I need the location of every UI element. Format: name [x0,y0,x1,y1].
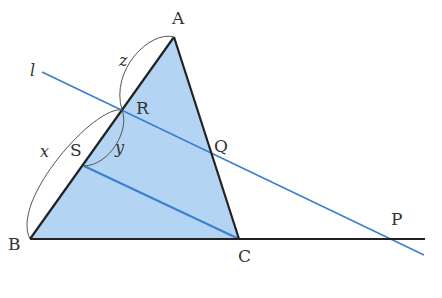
label-s: S [70,140,82,160]
label-a: A [171,8,185,28]
label-x: x [40,142,49,161]
label-line-l: l [30,61,35,80]
geometry-diagram: A B C R S Q P l x y z [0,0,442,298]
label-z: z [118,51,128,70]
label-y: y [114,138,125,157]
label-p: P [391,209,402,229]
label-c: C [238,246,251,266]
label-q: Q [214,136,228,156]
label-r: R [136,98,150,118]
label-b: B [8,234,21,254]
